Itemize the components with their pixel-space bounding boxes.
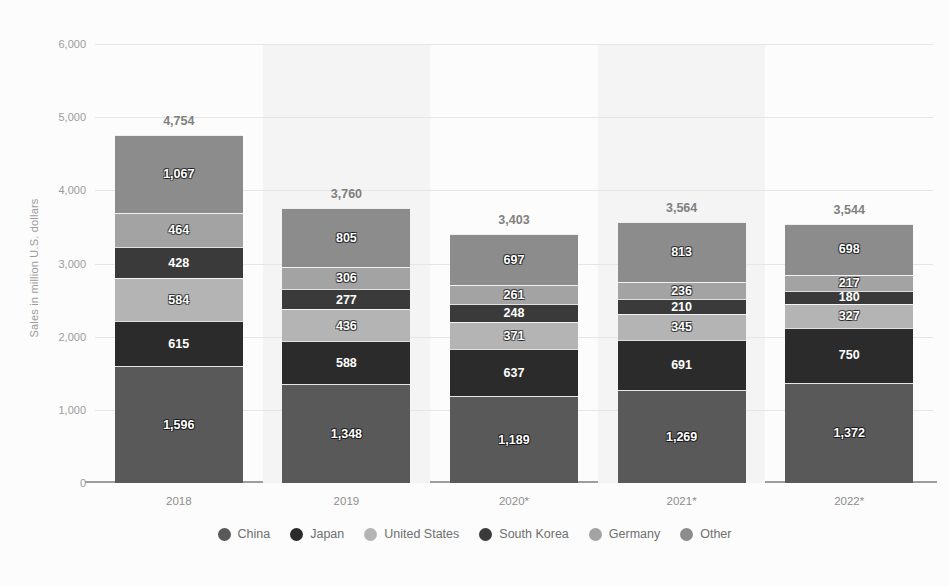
bar-segment[interactable]: 248 <box>450 304 578 322</box>
bar-segment-value: 1,067 <box>163 168 194 181</box>
bar-segment-value: 1,348 <box>331 428 362 441</box>
bar-segment-value: 1,269 <box>666 431 697 444</box>
bar-segment[interactable]: 697 <box>450 234 578 285</box>
x-axis-tick-label: 2018 <box>95 495 263 507</box>
bar-stack[interactable]: 1,0674644285846151,5964,754 <box>115 135 243 483</box>
bar-segment-value: 261 <box>504 289 525 302</box>
bar-segment[interactable]: 236 <box>618 282 746 299</box>
bar-segment[interactable]: 691 <box>618 340 746 391</box>
bar-segment[interactable]: 637 <box>450 349 578 396</box>
x-axis-tick-label: 2021* <box>598 495 766 507</box>
legend-item-label: China <box>238 527 271 541</box>
bar-segment[interactable]: 180 <box>785 291 913 304</box>
bar-segment[interactable]: 584 <box>115 278 243 321</box>
bar-segment-value: 750 <box>839 349 860 362</box>
bar-stack[interactable]: 8132362103456911,2693,564 <box>618 222 746 483</box>
bar-segment-value: 345 <box>671 321 692 334</box>
legend-swatch-icon <box>218 528 231 541</box>
y-axis-tick-label: 5,000 <box>16 111 86 123</box>
bar-segment[interactable]: 277 <box>282 289 410 309</box>
legend-swatch-icon <box>479 528 492 541</box>
bar-segment-value: 306 <box>336 272 357 285</box>
legend-item[interactable]: South Korea <box>479 527 569 541</box>
bar-segment[interactable]: 210 <box>618 299 746 314</box>
legend-swatch-icon <box>680 528 693 541</box>
bar-segment-value: 217 <box>839 277 860 290</box>
bar-segment[interactable]: 261 <box>450 285 578 304</box>
bar-segment[interactable]: 306 <box>282 267 410 289</box>
x-axis-tick-label: 2020* <box>430 495 598 507</box>
bar-segment[interactable]: 1,067 <box>115 135 243 213</box>
bar-total-value: 3,403 <box>450 213 578 227</box>
bar-segment-value: 588 <box>336 357 357 370</box>
bar-segment[interactable]: 436 <box>282 309 410 341</box>
bar-stack[interactable]: 6982171803277501,3723,544 <box>785 224 913 483</box>
bar-segment-value: 698 <box>839 243 860 256</box>
y-axis-tick-label: 4,000 <box>16 184 86 196</box>
legend-item[interactable]: United States <box>364 527 459 541</box>
bar-segment-value: 691 <box>671 359 692 372</box>
plot-area: 1,0674644285846151,5964,7548053062774365… <box>95 44 933 483</box>
bar-segment[interactable]: 588 <box>282 341 410 384</box>
y-axis-ticks: 6,0005,0004,0003,0002,0001,0000 <box>8 44 86 483</box>
y-axis-tick-label: 6,000 <box>16 38 86 50</box>
bar-segment[interactable]: 615 <box>115 321 243 366</box>
bar-segment[interactable]: 813 <box>618 222 746 281</box>
bar-segment[interactable]: 1,269 <box>618 390 746 483</box>
bar-segment[interactable]: 750 <box>785 328 913 383</box>
legend-item[interactable]: Other <box>680 527 731 541</box>
legend-item[interactable]: Germany <box>589 527 660 541</box>
bar-stack[interactable]: 8053062774365881,3483,760 <box>282 208 410 483</box>
y-axis-tick-label: 1,000 <box>16 404 86 416</box>
bar-segment-value: 637 <box>504 367 525 380</box>
legend-item-label: Other <box>700 527 731 541</box>
legend-item[interactable]: China <box>218 527 271 541</box>
bar-total-value: 3,544 <box>785 203 913 217</box>
bar-segment[interactable]: 428 <box>115 247 243 278</box>
y-axis-tick-label: 3,000 <box>16 258 86 270</box>
bar-segment-value: 805 <box>336 232 357 245</box>
legend-item[interactable]: Japan <box>290 527 344 541</box>
bar-segment[interactable]: 327 <box>785 304 913 328</box>
x-axis-tick-label: 2019 <box>263 495 431 507</box>
bar-segment[interactable]: 371 <box>450 322 578 349</box>
bar-segment-value: 248 <box>504 307 525 320</box>
bar-segment-value: 697 <box>504 254 525 267</box>
bar-segment[interactable]: 1,372 <box>785 383 913 483</box>
bar-segment-value: 236 <box>671 285 692 298</box>
legend-swatch-icon <box>589 528 602 541</box>
legend-item-label: Japan <box>310 527 344 541</box>
bar-segment-value: 327 <box>839 310 860 323</box>
y-axis-tick-label: 2,000 <box>16 331 86 343</box>
bar-segment[interactable]: 1,189 <box>450 396 578 483</box>
bar-segment-value: 1,596 <box>163 419 194 432</box>
legend-item-label: South Korea <box>499 527 569 541</box>
bar-total-value: 3,564 <box>618 201 746 215</box>
gridline <box>95 44 933 45</box>
bar-segment-value: 615 <box>168 338 189 351</box>
bar-segment[interactable]: 698 <box>785 224 913 275</box>
bar-stack[interactable]: 6972612483716371,1893,403 <box>450 234 578 483</box>
legend-swatch-icon <box>364 528 377 541</box>
bar-segment-value: 277 <box>336 294 357 307</box>
bar-total-value: 4,754 <box>115 114 243 128</box>
bar-segment-value: 428 <box>168 257 189 270</box>
bar-segment[interactable]: 805 <box>282 208 410 267</box>
bar-segment[interactable]: 345 <box>618 314 746 339</box>
chart-legend: ChinaJapanUnited StatesSouth KoreaGerman… <box>0 527 949 541</box>
bar-segment[interactable]: 1,596 <box>115 366 243 483</box>
legend-item-label: United States <box>384 527 459 541</box>
bar-segment-value: 1,189 <box>498 434 529 447</box>
y-axis-tick-label: 0 <box>16 477 86 489</box>
bar-segment-value: 1,372 <box>834 427 865 440</box>
legend-item-label: Germany <box>609 527 660 541</box>
x-axis-tick-label: 2022* <box>765 495 933 507</box>
bar-segment-value: 584 <box>168 294 189 307</box>
bar-segment-value: 813 <box>671 246 692 259</box>
bar-segment[interactable]: 217 <box>785 275 913 291</box>
bar-total-value: 3,760 <box>282 187 410 201</box>
bar-segment-value: 371 <box>504 330 525 343</box>
bar-segment[interactable]: 464 <box>115 213 243 247</box>
legend-swatch-icon <box>290 528 303 541</box>
bar-segment[interactable]: 1,348 <box>282 384 410 483</box>
